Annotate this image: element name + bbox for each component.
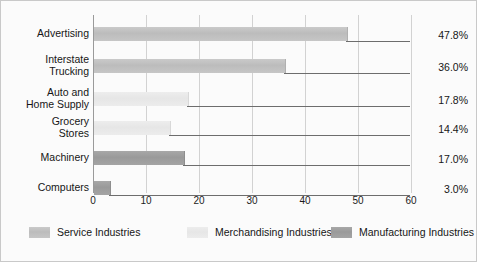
value-label: 17.8% <box>408 94 468 106</box>
category-label: Auto and Home Supply <box>0 86 89 110</box>
value-label: 3.0% <box>408 183 468 195</box>
legend-swatch-icon <box>187 227 208 238</box>
legend-label: Merchandising Industries <box>215 226 332 238</box>
leader-line <box>187 106 410 107</box>
bar <box>94 181 111 195</box>
value-label: 36.0% <box>408 61 468 73</box>
legend-swatch-icon <box>331 227 352 238</box>
gridline-20 <box>199 15 200 193</box>
leader-line <box>169 135 410 136</box>
category-label: Computers <box>0 181 89 193</box>
bar <box>94 92 189 106</box>
leader-line <box>183 165 410 166</box>
leader-line <box>346 41 410 42</box>
leader-line <box>284 73 410 74</box>
gridline-40 <box>305 15 306 193</box>
bar <box>94 151 185 165</box>
x-tick-label: 30 <box>246 195 257 206</box>
category-label: Interstate Trucking <box>0 53 89 77</box>
category-label: Grocery Stores <box>0 115 89 139</box>
x-tick-label: 0 <box>90 195 96 206</box>
legend-item-manuf[interactable]: Manufacturing Industries <box>331 223 474 241</box>
x-tick-label: 40 <box>299 195 310 206</box>
legend-item-service[interactable]: Service Industries <box>29 223 140 241</box>
bar <box>94 59 286 73</box>
bar <box>94 121 171 135</box>
legend-swatch-icon <box>29 227 50 238</box>
leader-line <box>109 195 410 196</box>
value-label: 14.4% <box>408 123 468 135</box>
gridline-30 <box>252 15 253 193</box>
chart-legend: Service IndustriesMerchandising Industri… <box>1 223 477 243</box>
legend-label: Service Industries <box>57 226 140 238</box>
legend-label: Manufacturing Industries <box>359 226 474 238</box>
x-tick-label: 60 <box>405 195 416 206</box>
category-label: Advertising <box>0 27 89 39</box>
x-tick-label: 50 <box>352 195 363 206</box>
x-tick-label: 20 <box>193 195 204 206</box>
x-tick-label: 10 <box>140 195 151 206</box>
bar <box>94 27 348 41</box>
bar-chart: 0102030405060 Advertising47.8%Interstate… <box>0 0 477 262</box>
value-label: 17.0% <box>408 153 468 165</box>
value-label: 47.8% <box>408 29 468 41</box>
legend-item-merch[interactable]: Merchandising Industries <box>187 223 332 241</box>
category-label: Machinery <box>0 151 89 163</box>
